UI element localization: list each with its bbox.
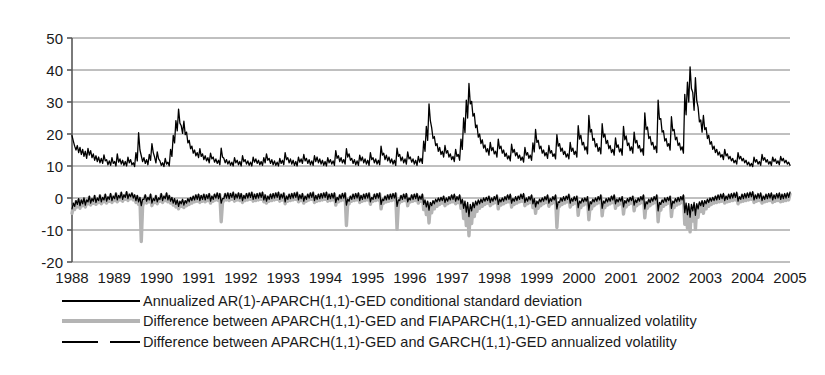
y-tick-label-40: 40	[46, 62, 63, 79]
x-tick-label-1997: 1997	[435, 269, 468, 286]
legend-label-2: Difference between APARCH(1,1)-GED and F…	[143, 313, 697, 329]
y-tick-label--20: -20	[41, 254, 63, 271]
y-tick-label-50: 50	[46, 30, 63, 47]
x-tick-label-2003: 2003	[689, 269, 722, 286]
chart-svg: 50403020100-10-20 1988198919901991199219…	[0, 0, 825, 375]
x-tick-label-2004: 2004	[731, 269, 764, 286]
y-tick-label-20: 20	[46, 126, 63, 143]
legend-label-1: Annualized AR(1)-APARCH(1,1)-GED conditi…	[143, 293, 582, 309]
x-tick-label-2001: 2001	[604, 269, 637, 286]
x-tick-label-1996: 1996	[393, 269, 426, 286]
x-tick-label-1991: 1991	[182, 269, 215, 286]
legend-label-3: Difference between APARCH(1,1)-GED and G…	[143, 334, 678, 350]
x-tick-label-1990: 1990	[140, 269, 173, 286]
x-tick-label-2000: 2000	[562, 269, 595, 286]
y-tick-label--10: -10	[41, 222, 63, 239]
x-tick-label-1998: 1998	[478, 269, 511, 286]
y-tick-label-30: 30	[46, 94, 63, 111]
x-tick-label-1999: 1999	[520, 269, 553, 286]
y-tick-label-0: 0	[55, 190, 63, 207]
x-tick-label-1988: 1988	[55, 269, 88, 286]
x-tick-label-1989: 1989	[98, 269, 131, 286]
x-tick-label-2005: 2005	[773, 269, 806, 286]
y-tick-label-10: 10	[46, 158, 63, 175]
x-tick-label-1994: 1994	[309, 269, 342, 286]
x-tick-label-2002: 2002	[647, 269, 680, 286]
x-tick-label-1995: 1995	[351, 269, 384, 286]
volatility-chart-figure: 50403020100-10-20 1988198919901991199219…	[0, 0, 825, 375]
x-tick-label-1993: 1993	[266, 269, 299, 286]
x-tick-label-1992: 1992	[224, 269, 257, 286]
